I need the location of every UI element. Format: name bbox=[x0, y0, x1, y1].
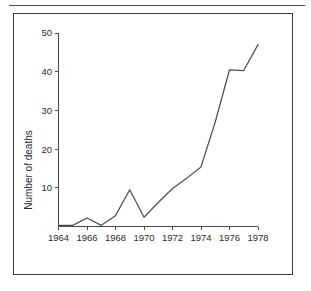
x-tick-label: 1972 bbox=[162, 232, 183, 243]
x-tick-label: 1966 bbox=[76, 232, 97, 243]
x-tick-label: 1976 bbox=[219, 232, 240, 243]
x-tick-label: 1974 bbox=[190, 232, 211, 243]
x-tick-label: 1978 bbox=[247, 232, 268, 243]
x-axis-tick-labels: 19641966196819701972197419761978 bbox=[48, 232, 269, 243]
y-axis-tick-labels: 1020304050 bbox=[41, 27, 52, 193]
y-tick-label: 50 bbox=[41, 27, 52, 38]
line-chart: 1020304050 19641966196819701972197419761… bbox=[0, 0, 311, 291]
y-axis-title: Number of deaths bbox=[23, 130, 34, 210]
y-tick-label: 30 bbox=[41, 105, 52, 116]
x-axis-ticks bbox=[59, 227, 259, 231]
figure-root: 1020304050 19641966196819701972197419761… bbox=[0, 0, 311, 291]
y-tick-label: 20 bbox=[41, 144, 52, 155]
y-tick-label: 40 bbox=[41, 66, 52, 77]
y-tick-label: 10 bbox=[41, 182, 52, 193]
data-series-line bbox=[59, 45, 259, 226]
x-tick-label: 1968 bbox=[105, 232, 126, 243]
y-axis-ticks bbox=[55, 33, 59, 188]
x-tick-label: 1964 bbox=[48, 232, 69, 243]
x-tick-label: 1970 bbox=[133, 232, 154, 243]
